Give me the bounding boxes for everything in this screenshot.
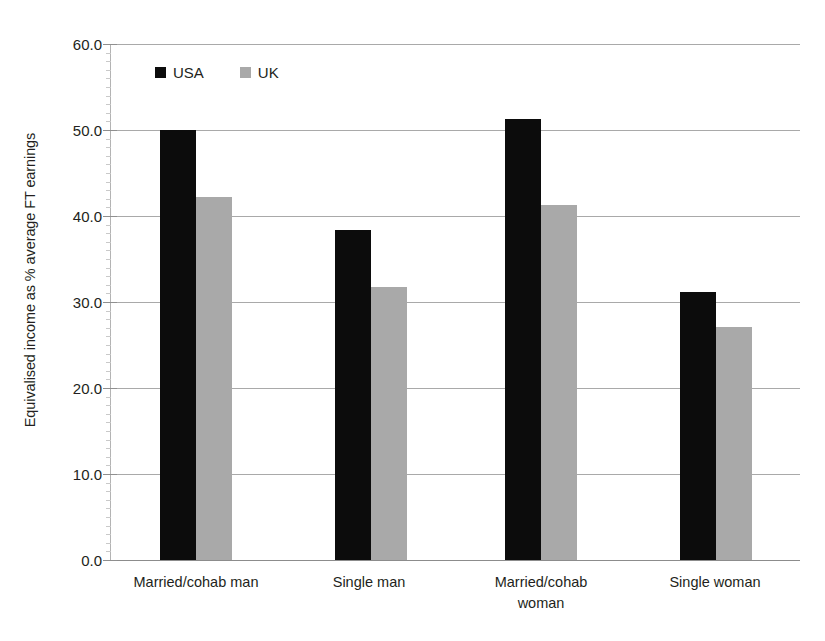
x-tick-label: Single man (294, 572, 444, 593)
y-tick-label: 50.0 (42, 123, 102, 138)
bar-uk-1 (371, 287, 407, 560)
x-axis-tick-labels: Married/cohab manSingle manMarried/cohab… (110, 572, 800, 636)
bar-uk-0 (196, 197, 232, 560)
y-tick-label: 10.0 (42, 467, 102, 482)
bar-usa-2 (505, 119, 541, 560)
x-tick-label: Single woman (640, 572, 790, 593)
bars-layer (110, 44, 800, 560)
y-tick-label: 0.0 (42, 553, 102, 568)
x-tick-label-line: Married/cohab man (121, 572, 271, 593)
bar-usa-1 (335, 230, 371, 560)
y-axis-title-text: Equivalised income as % average FT earni… (22, 133, 38, 427)
y-major-tick (103, 216, 117, 217)
bar-chart-figure: Equivalised income as % average FT earni… (0, 0, 825, 641)
x-tick-label-line: woman (466, 593, 616, 614)
y-major-tick (103, 388, 117, 389)
x-tick-label: Married/cohabwoman (466, 572, 616, 614)
y-axis-tick-labels: 60.050.040.030.020.010.00.0 (40, 0, 102, 641)
y-major-tick (103, 130, 117, 131)
y-tick-label: 60.0 (42, 37, 102, 52)
legend-label: UK (258, 64, 279, 81)
bar-usa-0 (160, 130, 196, 560)
x-tick-label: Married/cohab man (121, 572, 271, 593)
y-tick-label: 20.0 (42, 381, 102, 396)
bar-usa-3 (680, 292, 716, 560)
legend-entry-usa: USA (155, 64, 204, 81)
legend-entry-uk: UK (240, 64, 279, 81)
y-major-tick (103, 302, 117, 303)
y-tick-label: 30.0 (42, 295, 102, 310)
black-square-swatch (155, 67, 166, 78)
gray-square-swatch (240, 67, 251, 78)
x-tick-label-line: Single man (294, 572, 444, 593)
y-axis-top-cap (104, 44, 117, 45)
x-tick-label-line: Married/cohab (466, 572, 616, 593)
legend-label: USA (173, 64, 204, 81)
bar-uk-2 (541, 205, 577, 560)
y-tick-label: 40.0 (42, 209, 102, 224)
gridline-0 (110, 560, 800, 561)
y-axis-bottom-cap (104, 560, 117, 561)
y-major-tick (103, 474, 117, 475)
x-tick-label-line: Single woman (640, 572, 790, 593)
chart-legend: USAUK (155, 64, 279, 81)
bar-uk-3 (716, 327, 752, 560)
